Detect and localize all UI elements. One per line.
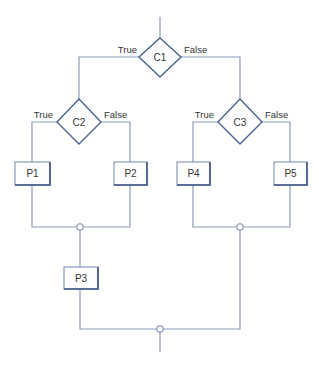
- c3-false-label: False: [265, 109, 288, 120]
- decision-c2-label: C2: [73, 117, 86, 128]
- junction-j2: [237, 224, 243, 230]
- c1-false-label: False: [184, 44, 207, 55]
- c3-true-branch: [193, 122, 218, 162]
- process-p2-label: P2: [124, 168, 137, 179]
- junction-j1: [77, 224, 83, 230]
- final-merge-line: [80, 230, 240, 329]
- process-p1-label: P1: [26, 168, 39, 179]
- process-p1: P1: [15, 162, 50, 185]
- decision-c1-label: C1: [154, 52, 167, 63]
- c1-true-branch: [79, 57, 139, 99]
- process-p4-label: P4: [187, 168, 200, 179]
- junction-j3: [157, 326, 163, 332]
- process-p4: P4: [177, 162, 210, 185]
- process-p2: P2: [114, 162, 147, 185]
- c1-true-label: True: [118, 44, 137, 55]
- c3-true-label: True: [195, 109, 214, 120]
- process-p5-label: P5: [284, 168, 297, 179]
- process-p3: P3: [64, 267, 98, 289]
- process-p5: P5: [274, 162, 307, 185]
- c1-false-branch: [181, 57, 240, 99]
- c3-false-branch: [262, 122, 290, 162]
- process-p3-label: P3: [75, 273, 88, 284]
- flowchart-canvas: C1 True False C2 True False C3 True Fals…: [0, 0, 319, 370]
- c2-false-label: False: [104, 109, 127, 120]
- c2-true-label: True: [34, 109, 53, 120]
- right-merge-line: [193, 185, 290, 227]
- decision-c3-label: C3: [234, 117, 247, 128]
- left-merge-line: [32, 185, 130, 227]
- c2-true-branch: [32, 122, 57, 162]
- c2-false-branch: [101, 122, 130, 162]
